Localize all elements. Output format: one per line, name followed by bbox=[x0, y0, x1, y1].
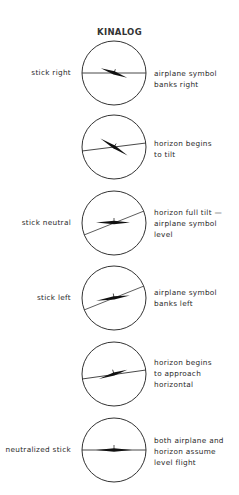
frame-right-label: airplane symbol banks left bbox=[154, 287, 217, 309]
frame-right-label: airplane symbol banks right bbox=[154, 68, 217, 90]
frame-right-label: horizon begins to tilt bbox=[154, 138, 212, 160]
kinalog-frame-2: horizon begins to tilt bbox=[0, 112, 239, 188]
frame-left-label: stick left bbox=[37, 293, 71, 302]
frame-left-label: stick right bbox=[31, 68, 71, 77]
kinalog-frame-5: horizon begins to approach horizontal bbox=[0, 339, 239, 415]
attitude-indicator-icon bbox=[78, 112, 150, 184]
frame-right-label: both airplane and horizon assume level f… bbox=[154, 435, 224, 468]
frame-left-label: stick neutral bbox=[22, 218, 71, 227]
attitude-indicator-icon bbox=[78, 339, 150, 411]
kinalog-frame-6: neutralized stick both airplane and hori… bbox=[0, 415, 239, 491]
kinalog-frame-3: stick neutral horizon full tilt — airpla… bbox=[0, 188, 239, 264]
attitude-indicator-icon bbox=[78, 415, 150, 487]
frame-right-label: horizon begins to approach horizontal bbox=[154, 357, 212, 390]
kinalog-frame-1: stick right airplane symbol banks right bbox=[0, 38, 239, 114]
attitude-indicator-icon bbox=[78, 38, 150, 110]
frame-left-label: neutralized stick bbox=[6, 445, 71, 454]
attitude-indicator-icon bbox=[78, 188, 150, 260]
attitude-indicator-icon bbox=[78, 263, 150, 335]
diagram-title: KINALOG bbox=[0, 27, 239, 37]
frame-right-label: horizon full tilt — airplane symbol leve… bbox=[154, 207, 222, 240]
kinalog-frame-4: stick left airplane symbol banks left bbox=[0, 263, 239, 339]
